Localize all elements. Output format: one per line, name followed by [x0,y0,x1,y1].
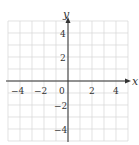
x-tick-label: 4 [113,86,119,96]
coordinate-plane: x y −4 −2 0 2 4 4 2 −2 −4 [0,0,139,145]
x-tick-label: 0 [59,86,65,96]
y-axis-label: y [62,8,70,21]
y-tick-label: −2 [54,101,67,111]
y-tick-label: 2 [60,53,66,63]
x-tick-label: −4 [11,86,25,96]
x-axis-label: x [132,75,139,88]
x-tick-label: −2 [34,86,47,96]
x-tick-label: 2 [89,86,95,96]
y-tick-label: 4 [60,29,66,39]
y-tick-label: −4 [54,125,68,135]
